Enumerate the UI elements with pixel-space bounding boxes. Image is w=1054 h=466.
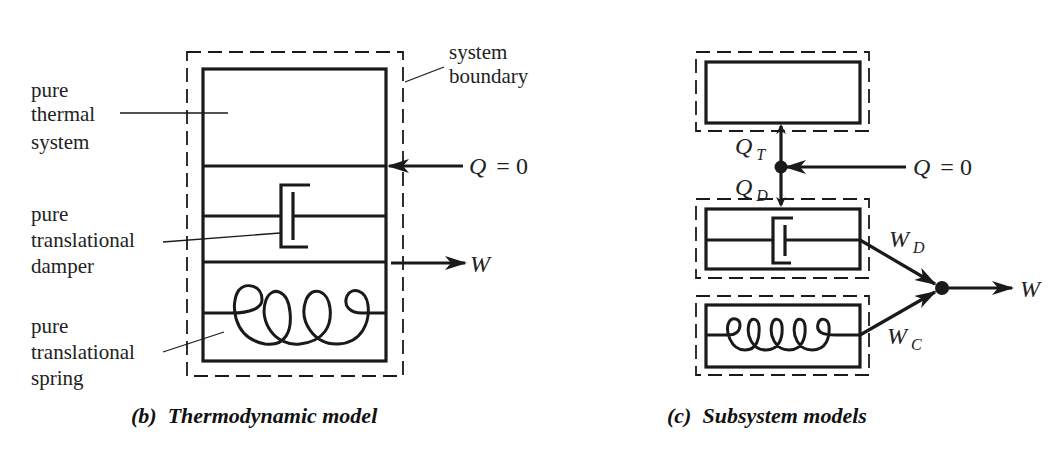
work-output-label: W: [470, 251, 492, 277]
leader-damper: [163, 233, 280, 242]
heat-input-label: Q = 0: [469, 153, 528, 179]
work-output-label-c: W: [1020, 276, 1042, 302]
work-junction-node: [935, 281, 949, 295]
system-boundary-dashed: [187, 52, 403, 376]
heat-thermal-label: Q T: [735, 133, 766, 163]
thermal-subsystem-box: [706, 62, 860, 123]
label-pure-thermal-system: pure thermal system: [31, 78, 100, 154]
heat-junction-node: [775, 161, 788, 174]
panel-c-subsystem-models: Q = 0 Q T Q D W D W C W (c) Subsystem mo…: [667, 52, 1042, 428]
label-system-boundary: system boundary: [449, 40, 529, 88]
work-damper-label: W D: [889, 226, 925, 256]
leader-spring: [163, 332, 224, 352]
leader-boundary: [405, 67, 444, 82]
label-pure-translational-spring: pure translational spring: [31, 314, 140, 390]
work-spring-label: W C: [887, 323, 922, 353]
figure-canvas: pure thermal system pure translational d…: [0, 0, 1054, 466]
damper-icon-small: [706, 218, 860, 263]
thermal-subsystem-boundary: [696, 52, 869, 131]
heat-input-label-c: Q = 0: [913, 154, 972, 180]
heat-damper-label: Q D: [735, 174, 768, 204]
spring-icon: [203, 286, 386, 345]
caption-c: (c) Subsystem models: [667, 403, 867, 428]
damper-icon: [203, 185, 386, 247]
spring-icon-small: [706, 319, 860, 350]
label-pure-translational-damper: pure translational damper: [31, 202, 140, 278]
panel-b-thermodynamic-model: pure thermal system pure translational d…: [31, 40, 529, 428]
caption-b: (b) Thermodynamic model: [131, 403, 378, 428]
